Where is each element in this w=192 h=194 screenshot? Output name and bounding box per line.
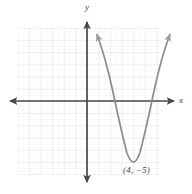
x-axis-label: x xyxy=(179,96,183,105)
vertex-coordinate-label: (4, −5) xyxy=(123,165,150,175)
y-axis-label: y xyxy=(85,3,89,12)
graph-canvas xyxy=(0,0,192,194)
graph-figure: y x (4, −5) xyxy=(0,0,192,194)
